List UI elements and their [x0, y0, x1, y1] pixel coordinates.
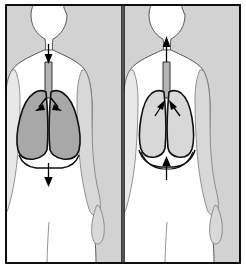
panel-exhalation: [111, 0, 240, 268]
panel-inhalation: [0, 0, 122, 268]
diagram-canvas: [0, 0, 246, 268]
breathing-diagram-figure: Mechanics of breathing: inhalation and e…: [0, 0, 246, 268]
